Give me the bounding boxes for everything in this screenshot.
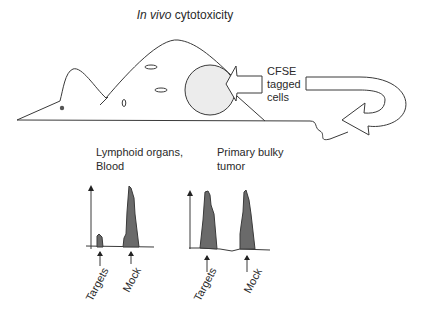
mouse-neck [100,97,108,105]
peak-targets [97,234,103,247]
title-rest: cytotoxicity [171,8,233,22]
marker-targets-arrowhead-icon [97,251,103,256]
panel-tumor-label: Primary bulky tumor [217,146,284,172]
injection-label-line-1: CFSE [267,65,296,77]
mouse-head [17,69,106,120]
y-axis-arrowhead-icon [187,190,193,196]
peak-targets [200,191,217,249]
title-italic: In vivo [137,8,172,22]
histogram-tumor [187,190,270,272]
marker-mock-arrowhead-icon [128,251,134,256]
x-axis-baseline [86,246,154,247]
mouse-eye [60,106,64,110]
marker-label-targets-2: Targets [191,265,219,303]
panel-lymphoid-line-2: Blood [96,160,124,172]
mouse-baseline [17,120,348,140]
injection-label-line-2: tagged [267,78,301,90]
panel-lymphoid-line-1: Lymphoid organs, [96,146,183,158]
diagram-canvas: In vivo cytotoxicity CFSE tagged cells L… [0,0,423,315]
tumor-circle [185,65,235,115]
peak-mock [123,186,139,247]
panel-tumor-line-2: tumor [217,160,245,172]
marker-label-targets-1: Targets [83,265,111,303]
injection-label: CFSE tagged cells [267,65,301,103]
panel-lymphoid-label: Lymphoid organs, Blood [96,146,183,172]
peak-mock [240,190,255,249]
marker-targets-arrowhead-icon [204,255,210,260]
marker-label-mock-2: Mock [241,266,264,295]
organ-ellipse-1 [145,65,157,69]
diagram-title: In vivo cytotoxicity [137,8,234,22]
y-axis-arrowhead-icon [88,185,94,191]
histogram-lymphoid [86,185,154,266]
organ-ellipse-2 [155,88,167,92]
marker-label-mock-1: Mock [120,265,143,294]
panel-tumor-line-1: Primary bulky [217,146,284,158]
injection-label-line-3: cells [267,91,290,103]
organ-ellipse-3 [122,100,126,107]
u-turn-arrow-icon [306,77,406,135]
marker-mock-arrowhead-icon [244,255,250,260]
